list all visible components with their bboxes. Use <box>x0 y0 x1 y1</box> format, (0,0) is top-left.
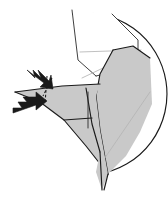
fold-arrow-upper <box>27 70 53 89</box>
fold-arrow-upper-glyph <box>27 70 53 89</box>
origami-diagram-canvas <box>0 0 168 197</box>
origami-figure <box>0 0 168 197</box>
